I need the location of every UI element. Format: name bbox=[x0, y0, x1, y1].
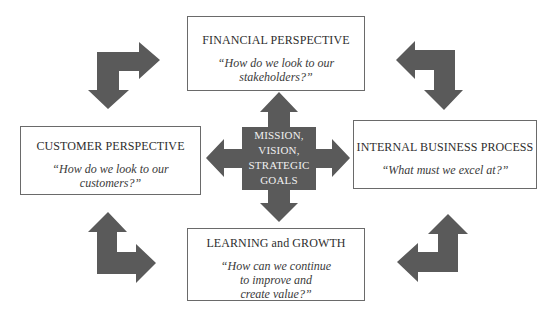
financial-perspective-box: FINANCIAL PERSPECTIVE “How do we look to… bbox=[187, 16, 365, 91]
internal-business-process-question: “What must we excel at?” bbox=[354, 163, 536, 177]
learning-growth-box: LEARNING and GROWTH “How can we continue… bbox=[187, 228, 365, 301]
internal-business-process-title: INTERNAL BUSINESS PROCESS bbox=[354, 140, 536, 155]
learning-growth-title: LEARNING and GROWTH bbox=[188, 236, 364, 251]
customer-perspective-question: “How do we look to our customers?” bbox=[21, 162, 200, 190]
customer-perspective-title: CUSTOMER PERSPECTIVE bbox=[21, 139, 200, 154]
learning-growth-question: “How can we continue to improve and crea… bbox=[188, 259, 364, 301]
elbow-arrow-bottom-right-icon bbox=[397, 214, 468, 282]
elbow-arrow-bottom-left-icon bbox=[88, 212, 156, 283]
customer-perspective-box: CUSTOMER PERSPECTIVE “How do we look to … bbox=[20, 126, 201, 195]
financial-perspective-title: FINANCIAL PERSPECTIVE bbox=[188, 33, 364, 48]
internal-business-process-box: INTERNAL BUSINESS PROCESS “What must we … bbox=[353, 120, 537, 189]
elbow-arrow-top-left-icon bbox=[88, 42, 160, 109]
center-mission-label: MISSION, VISION, STRATEGIC GOALS bbox=[242, 128, 316, 188]
elbow-arrow-top-right-icon bbox=[396, 41, 463, 110]
financial-perspective-question: “How do we look to our stakeholders?” bbox=[188, 56, 364, 84]
